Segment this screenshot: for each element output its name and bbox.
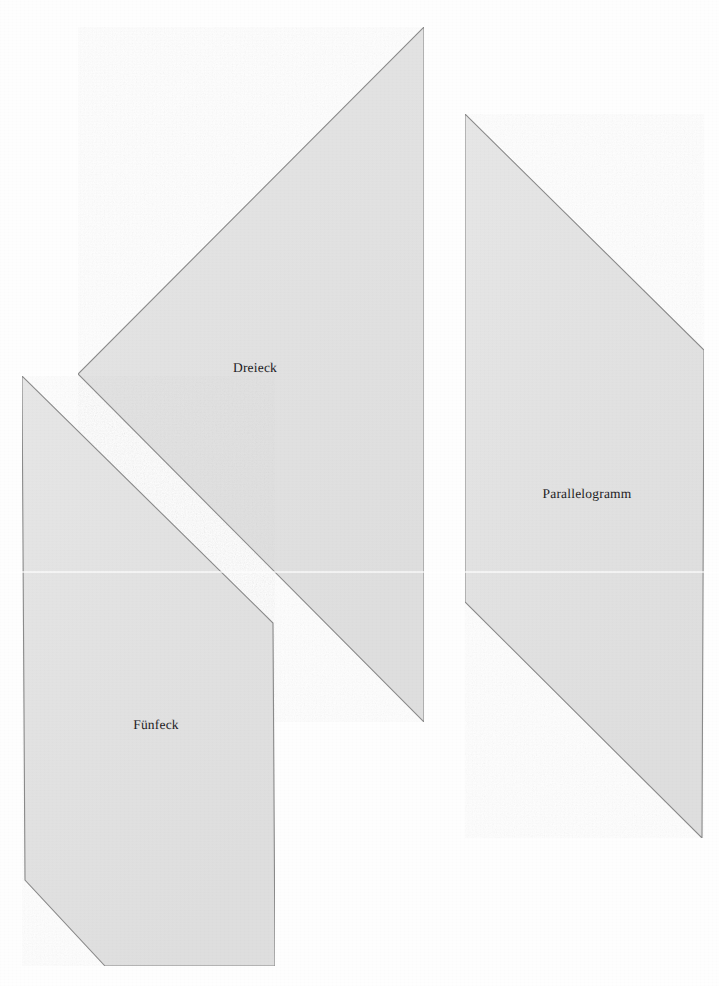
shape-label-dreieck: Dreieck (233, 361, 277, 375)
shape-parallelogramm (465, 114, 704, 838)
shape-label-parallelogramm: Parallelogramm (542, 487, 631, 501)
document-page: Dreieck Parallelogramm Fünfeck (0, 0, 719, 986)
shape-label-fuenfeck: Fünfeck (133, 718, 179, 732)
